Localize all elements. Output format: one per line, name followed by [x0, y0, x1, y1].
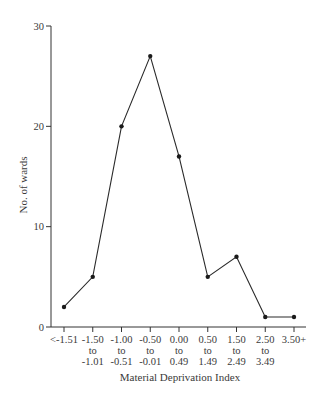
- x-tick-label: 2.50to3.49: [256, 334, 274, 367]
- x-tick-label: -0.50to-0.01: [139, 334, 161, 367]
- x-tick-label: -1.50to-1.01: [82, 334, 104, 367]
- x-tick-label: -1.00to-0.51: [111, 334, 133, 367]
- axes: [51, 26, 306, 327]
- y-axis-title: No. of wards: [17, 156, 29, 213]
- x-tick-label: 1.50to2.49: [227, 334, 245, 367]
- x-ticks: <-1.51-1.50to-1.01-1.00to-0.51-0.50to-0.…: [50, 327, 306, 367]
- y-tick-label: 0: [39, 322, 44, 333]
- data-point: [91, 275, 95, 279]
- data-point: [148, 54, 152, 58]
- data-point: [292, 315, 296, 319]
- line-chart: 0102030 <-1.51-1.50to-1.01-1.00to-0.51-0…: [0, 0, 323, 397]
- data-point: [177, 154, 181, 158]
- y-tick-label: 30: [34, 21, 45, 32]
- series: [62, 54, 296, 319]
- data-point: [119, 124, 123, 128]
- data-point: [234, 255, 238, 259]
- series-line: [64, 56, 294, 317]
- y-tick-label: 10: [34, 221, 45, 232]
- x-tick-label: 0.00to0.49: [170, 334, 188, 367]
- data-point: [206, 275, 210, 279]
- x-tick-label: 3.50+: [282, 334, 306, 345]
- y-ticks: 0102030: [34, 21, 52, 333]
- data-point: [263, 315, 267, 319]
- x-tick-label: <-1.51: [50, 334, 78, 345]
- x-axis-title: Material Deprivation Index: [120, 371, 241, 383]
- y-tick-label: 20: [34, 121, 45, 132]
- x-tick-label: 0.50to1.49: [199, 334, 217, 367]
- data-point: [62, 305, 66, 309]
